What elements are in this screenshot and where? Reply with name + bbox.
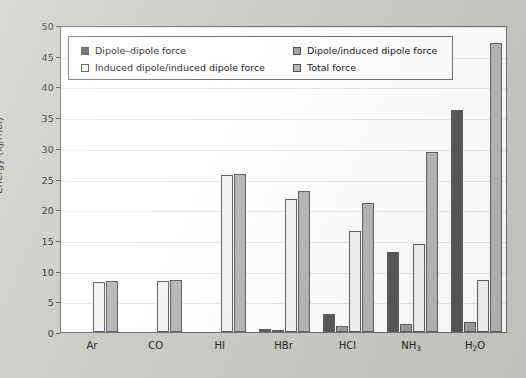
y-axis-tick-label: 50	[28, 21, 54, 32]
x-axis-tick-label: CO	[148, 340, 163, 351]
y-axis-tick-label: 15	[28, 235, 54, 246]
y-axis-tick-mark	[56, 272, 60, 273]
bar	[272, 330, 284, 332]
y-axis-tick-label: 10	[28, 266, 54, 277]
x-axis-tick-label: NH3	[401, 340, 421, 351]
x-axis-tick-label: HBr	[274, 340, 293, 351]
bar	[170, 280, 182, 332]
y-axis-tick-mark	[56, 26, 60, 27]
bar	[426, 152, 438, 332]
legend-row: Dipole–dipole force Dipole/induced dipol…	[69, 42, 452, 59]
bar	[285, 199, 297, 332]
legend-label: Total force	[307, 62, 356, 73]
legend-row: Induced dipole/induced dipole force Tota…	[69, 59, 452, 76]
bar	[106, 281, 118, 332]
y-axis-tick-mark	[56, 333, 60, 334]
y-axis-tick-label: 5	[28, 297, 54, 308]
chart-figure: Energy (kJ/mol) 05101520253035404550 ArC…	[0, 0, 526, 378]
y-axis-tick-mark	[56, 149, 60, 150]
bar	[157, 281, 169, 332]
legend-swatch-icon	[81, 47, 89, 55]
bar	[349, 231, 361, 332]
bar	[93, 282, 105, 332]
bar	[464, 322, 476, 332]
legend-entry-dipole-induced: Dipole/induced dipole force	[291, 45, 437, 56]
legend-swatch-icon	[293, 64, 301, 72]
legend-entry-total-force: Total force	[291, 62, 356, 73]
bar	[477, 280, 489, 332]
bar	[323, 314, 335, 332]
bar	[413, 244, 425, 332]
legend-label: Induced dipole/induced dipole force	[95, 62, 265, 73]
y-axis-tick-label: 20	[28, 205, 54, 216]
y-axis-tick-mark	[56, 180, 60, 181]
x-axis-tick-label: H2O	[465, 340, 485, 351]
bar	[336, 326, 348, 332]
x-axis-tick-label: Ar	[86, 340, 97, 351]
legend-label: Dipole/induced dipole force	[307, 45, 437, 56]
bar	[362, 203, 374, 332]
legend-swatch-icon	[81, 64, 89, 72]
x-axis-tick-label: HI	[214, 340, 224, 351]
x-axis-tick-label: HCl	[339, 340, 356, 351]
legend-swatch-icon	[293, 47, 301, 55]
bar	[387, 252, 399, 332]
y-axis-tick-mark	[56, 87, 60, 88]
chart-legend: Dipole–dipole force Dipole/induced dipol…	[68, 36, 453, 80]
y-axis-tick-mark	[56, 210, 60, 211]
y-axis-tick-mark	[56, 302, 60, 303]
y-axis-tick-label: 40	[28, 82, 54, 93]
y-axis-tick-mark	[56, 241, 60, 242]
y-axis-tick-label: 35	[28, 113, 54, 124]
legend-label: Dipole–dipole force	[95, 45, 186, 56]
y-axis-tick-label: 30	[28, 143, 54, 154]
y-axis-title: Energy (kJ/mol)	[0, 86, 4, 226]
y-axis-tick-label: 25	[28, 174, 54, 185]
bar	[221, 175, 233, 332]
bar	[400, 324, 412, 332]
bar	[490, 43, 502, 332]
bar	[259, 329, 271, 332]
y-axis-tick-label: 0	[28, 328, 54, 339]
y-axis-tick-label: 45	[28, 51, 54, 62]
y-axis-tick-mark	[56, 57, 60, 58]
bar	[451, 110, 463, 332]
bar-group	[444, 27, 508, 332]
bar	[298, 191, 310, 332]
bar	[234, 174, 246, 332]
legend-entry-induced-induced: Induced dipole/induced dipole force	[69, 62, 291, 73]
y-axis-tick-mark	[56, 118, 60, 119]
legend-entry-dipole-dipole: Dipole–dipole force	[69, 45, 291, 56]
